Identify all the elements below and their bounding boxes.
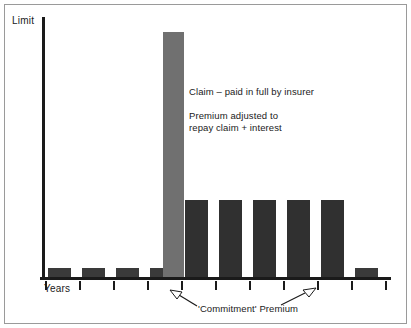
x-axis-tick-3: [113, 281, 115, 290]
x-axis-label: Years: [44, 283, 70, 294]
x-axis-tick-9: [317, 281, 319, 290]
bar-year-3: [116, 268, 139, 277]
plot-area: Limit Years Claim – paid in full by insu…: [0, 0, 411, 328]
bar-year-1: [48, 268, 71, 277]
bar-year-11: [355, 268, 378, 277]
x-axis-tick-8: [283, 281, 285, 290]
chart-figure: Limit Years Claim – paid in full by insu…: [0, 0, 411, 328]
x-axis-tick-11: [385, 281, 387, 290]
y-axis-line: [42, 17, 45, 278]
x-axis-tick-7: [249, 281, 251, 290]
annotation-commitment-premium: 'Commitment' Premium: [198, 303, 298, 314]
annotation-claim: Claim – paid in full by insurer: [189, 86, 314, 98]
bar-year-7: [219, 200, 242, 277]
x-axis-line: [40, 277, 391, 280]
x-axis-tick-2: [79, 281, 81, 290]
bar-year-8: [253, 200, 276, 277]
x-axis-tick-4: [147, 281, 149, 290]
bar-year-10: [321, 200, 344, 277]
x-axis-tick-10: [351, 281, 353, 290]
bar-year-2: [82, 268, 105, 277]
y-axis-label: Limit: [12, 15, 34, 26]
annotation-premium: Premium adjusted to repay claim + intere…: [189, 110, 282, 134]
x-axis-tick-5: [181, 281, 183, 290]
bar-claim: [163, 32, 184, 277]
bar-year-6: [185, 200, 208, 277]
arrow-left-icon: [170, 290, 197, 306]
x-axis-tick-6: [215, 281, 217, 290]
bar-year-9: [287, 200, 310, 277]
